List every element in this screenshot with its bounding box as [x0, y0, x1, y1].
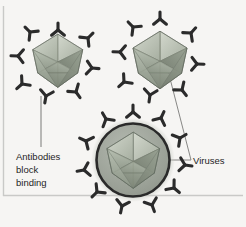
viruses-label: Viruses [193, 155, 225, 166]
antibodies-label-line-2: block [16, 164, 38, 175]
antibody-virus-diagram: Antibodies block binding Viruses [0, 0, 246, 227]
antibodies-label-line-3: binding [16, 177, 47, 188]
antibodies-label-line-1: Antibodies [16, 151, 61, 162]
